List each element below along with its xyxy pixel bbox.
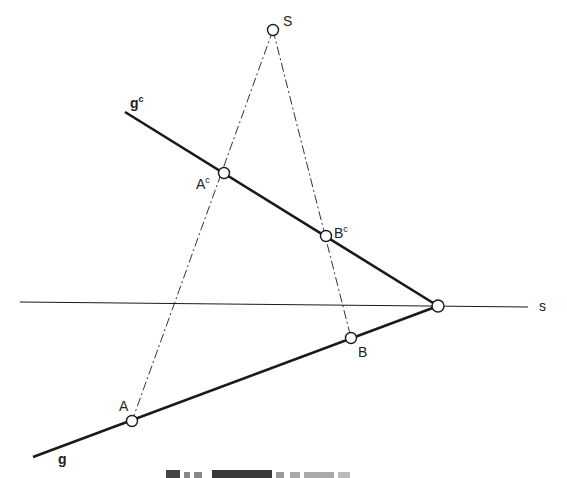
ray-S-to-A	[132, 30, 273, 421]
ray-S-to-B	[273, 30, 351, 338]
point-Ac	[219, 168, 230, 179]
point-A	[127, 416, 138, 427]
label-Ac: Ac	[196, 175, 210, 192]
label-Bc-sup: c	[343, 224, 348, 234]
label-s: s	[539, 298, 546, 314]
line-g	[33, 306, 438, 457]
line-gc	[125, 112, 438, 306]
label-gc: gc	[130, 94, 144, 111]
label-Ac-sup: c	[205, 175, 210, 185]
label-Bc-base: B	[334, 225, 343, 241]
projection-diagram: S gc Ac Bc s B A g	[0, 0, 567, 478]
label-S: S	[283, 13, 292, 29]
point-apex	[432, 300, 444, 312]
trace-line-s	[20, 302, 528, 307]
label-gc-sup: c	[139, 94, 144, 104]
figure-caption-truncated	[166, 470, 350, 478]
point-B	[346, 333, 357, 344]
label-gc-base: g	[130, 95, 139, 111]
label-B: B	[358, 344, 367, 360]
point-S	[268, 25, 279, 36]
label-g: g	[58, 451, 67, 467]
label-Bc: Bc	[334, 224, 348, 241]
point-Bc	[321, 231, 332, 242]
label-A: A	[119, 398, 129, 414]
